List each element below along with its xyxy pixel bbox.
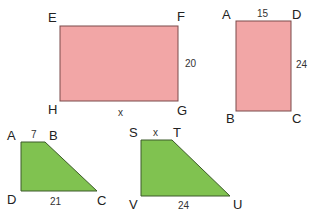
side-label-fg: 20 <box>185 58 197 69</box>
vertex-A2: A <box>7 128 16 143</box>
trapezoid-stuv <box>141 140 230 196</box>
vertex-D: D <box>292 7 301 22</box>
vertex-G: G <box>177 103 187 118</box>
vertex-H: H <box>48 102 57 117</box>
vertex-S: S <box>129 125 138 140</box>
vertex-E: E <box>48 10 57 25</box>
vertex-B2: B <box>49 128 58 143</box>
vertex-B: B <box>226 111 235 126</box>
similar-figures-diagram: E F G H 20 x A D B C 15 24 A B C D 7 21 … <box>0 0 313 219</box>
side-label-st: x <box>153 127 158 138</box>
vertex-A: A <box>222 7 231 22</box>
vertex-C2: C <box>97 193 106 208</box>
vertex-F: F <box>177 9 185 24</box>
side-label-ab: 7 <box>31 129 37 140</box>
rectangle-efgh <box>60 26 178 101</box>
side-label-dc: 24 <box>296 59 308 70</box>
side-label-ad: 15 <box>257 8 269 19</box>
vertex-T: T <box>173 125 181 140</box>
vertex-C: C <box>292 111 301 126</box>
rectangle-abcd <box>236 21 291 111</box>
side-label-vu: 24 <box>178 200 190 211</box>
vertex-U: U <box>233 197 242 212</box>
trapezoid-abcd <box>21 142 97 191</box>
vertex-V: V <box>129 197 138 212</box>
vertex-D2: D <box>7 192 16 207</box>
side-label-hg: x <box>118 107 123 118</box>
side-label-dc2: 21 <box>50 196 62 207</box>
